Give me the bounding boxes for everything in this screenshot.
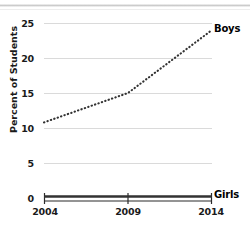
series-label-girls: Girls — [214, 189, 239, 200]
chart-figure: 25 20 15 10 5 0 Percent of Students 2004… — [0, 0, 250, 233]
series-label-boys: Boys — [214, 23, 240, 34]
x-tick-2004: 2004 — [23, 206, 67, 217]
x-axis-ticks: 2004 2009 2014 — [0, 0, 250, 233]
x-tick-2014: 2014 — [189, 206, 233, 217]
x-tick-2009: 2009 — [106, 206, 150, 217]
